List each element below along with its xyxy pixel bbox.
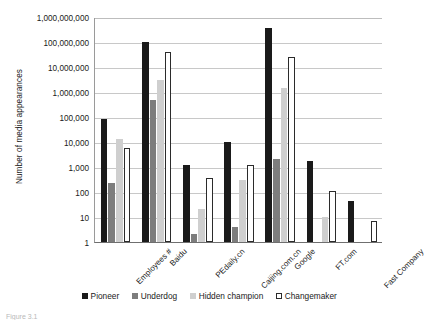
x-tick-label: Fast Company <box>383 247 426 290</box>
chart-legend: PioneerUnderdogHidden championChangemake… <box>0 291 419 301</box>
legend-item: Changemaker <box>276 291 337 301</box>
legend-swatch-pioneer <box>82 293 88 299</box>
x-tick-label: PEdaily.cn <box>214 247 247 280</box>
legend-label: Pioneer <box>91 291 120 301</box>
x-tick-label: FT.com <box>334 247 359 272</box>
legend-swatch-underdog <box>132 293 138 299</box>
legend-swatch-hidden <box>190 293 196 299</box>
legend-item: Pioneer <box>82 291 119 301</box>
legend-label: Underdog <box>141 291 177 301</box>
figure-caption: Figure 3.1 <box>6 313 206 320</box>
x-tick-label: Employees # <box>134 247 173 286</box>
legend-item: Hidden champion <box>190 291 263 301</box>
legend-label: Changemaker <box>285 291 337 301</box>
legend-label: Hidden champion <box>199 291 264 301</box>
legend-swatch-changemaker <box>276 293 282 299</box>
legend-item: Underdog <box>132 291 177 301</box>
